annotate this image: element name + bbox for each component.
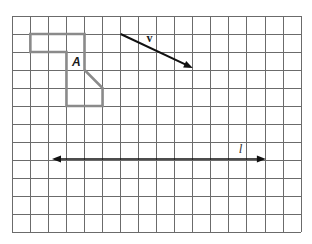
line-l-left-arrowhead-icon [52, 156, 61, 163]
vector-v-shaft [121, 34, 188, 65]
vector-v-label: v [146, 31, 152, 45]
figure-A-label: A [71, 55, 81, 69]
line-l-label: l [239, 141, 243, 156]
transformation-diagram: A v l [0, 0, 312, 244]
grid [12, 16, 301, 232]
vector-v-arrowhead-icon [183, 61, 193, 68]
